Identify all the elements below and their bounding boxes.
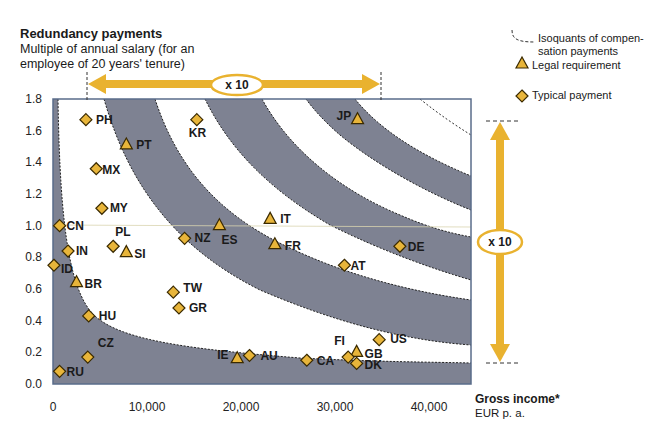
point-label-id: ID: [61, 262, 73, 276]
svg-text:1.6: 1.6: [25, 124, 42, 138]
svg-text:20,000: 20,000: [223, 400, 260, 414]
legend-isoquant: Isoquants of compen- sation payments: [538, 32, 644, 58]
point-label-my: MY: [110, 201, 128, 215]
point-label-tw: TW: [183, 281, 202, 295]
svg-text:10,000: 10,000: [129, 400, 166, 414]
legend-typical: Typical payment: [532, 89, 611, 102]
point-label-dk: DK: [365, 358, 383, 372]
point-label-it: IT: [280, 212, 291, 226]
legend-legal: Legal requirement: [532, 59, 621, 72]
point-label-mx: MX: [102, 163, 120, 177]
point-label-kr: KR: [189, 126, 207, 140]
point-label-ie: IE: [217, 348, 228, 362]
y-axis: 0.0 0.2 0.4 0.6 0.8 1.0 1.2 1.4 1.6 1.8: [25, 92, 42, 391]
vertical-factor-label: x 10: [488, 235, 512, 249]
point-label-nz: NZ: [195, 231, 211, 245]
point-label-es: ES: [221, 233, 237, 247]
svg-text:1.0: 1.0: [25, 219, 42, 233]
point-label-in: IN: [76, 244, 88, 258]
point-label-de: DE: [408, 240, 425, 254]
diamond-legend-icon: [516, 90, 528, 102]
point-label-fi: FI: [334, 334, 345, 348]
point-label-cn: CN: [67, 219, 84, 233]
point-label-pl: PL: [115, 225, 130, 239]
svg-text:30,000: 30,000: [317, 400, 354, 414]
isoquant-legend-icon: [512, 30, 534, 42]
point-label-jp: JP: [337, 109, 352, 123]
point-label-br: BR: [85, 277, 103, 291]
point-label-pt: PT: [136, 138, 152, 152]
svg-text:40,000: 40,000: [411, 400, 448, 414]
x-axis-title: Gross income*: [475, 392, 560, 406]
triangle-legend-icon: [516, 57, 528, 68]
horizontal-factor-label: x 10: [225, 78, 249, 92]
point-label-hu: HU: [99, 309, 116, 323]
point-label-ca: CA: [317, 354, 335, 368]
point-label-at: AT: [350, 259, 366, 273]
point-label-fr: FR: [285, 239, 301, 253]
point-label-au: AU: [260, 349, 277, 363]
svg-text:0: 0: [50, 400, 57, 414]
point-label-us: US: [390, 332, 407, 346]
point-label-si: SI: [134, 247, 145, 261]
svg-text:1.4: 1.4: [25, 155, 42, 169]
x-axis-unit: EUR p. a.: [475, 407, 525, 419]
legend-isoquant-line2: sation payments: [538, 45, 644, 58]
svg-text:0.8: 0.8: [25, 250, 42, 264]
svg-text:0.4: 0.4: [25, 314, 42, 328]
svg-text:0.2: 0.2: [25, 345, 42, 359]
point-label-gr: GR: [189, 301, 207, 315]
x-axis: 0 10,000 20,000 30,000 40,000: [50, 400, 448, 414]
svg-text:0.0: 0.0: [25, 377, 42, 391]
point-label-cz: CZ: [98, 336, 114, 350]
point-label-ru: RU: [67, 365, 84, 379]
svg-text:0.6: 0.6: [25, 282, 42, 296]
svg-text:1.2: 1.2: [25, 187, 42, 201]
legend-isoquant-line1: Isoquants of compen-: [538, 32, 644, 45]
svg-text:1.8: 1.8: [25, 92, 42, 106]
point-label-ph: PH: [96, 113, 113, 127]
